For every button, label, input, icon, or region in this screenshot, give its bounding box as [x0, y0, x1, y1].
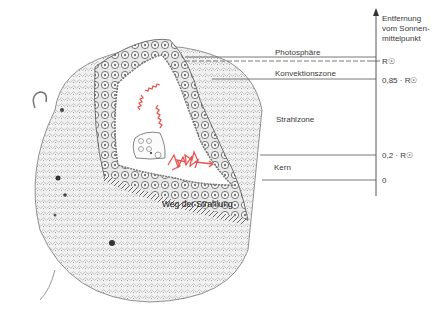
tick-label-0: 0 [382, 176, 386, 185]
distance-axis [373, 8, 379, 196]
axis-title-line-1: Entfernung [382, 14, 446, 24]
zone-label-convection: Konvektionszone [275, 69, 336, 78]
zone-label-radiative: Strahlzone [276, 115, 314, 124]
radiation-path-label: Weg der Strahlung [162, 200, 233, 209]
zone-label-photosphere: Photosphäre [275, 48, 320, 57]
axis-title-line-2: vom Sonnen- [382, 24, 446, 34]
axis-title-line-3: mittelpunkt [382, 34, 446, 44]
axis-title: Entfernung vom Sonnen- mittelpunkt [382, 14, 446, 44]
zone-label-core: Kern [274, 163, 291, 172]
tick-label-02: 0,2 · R☉ [382, 151, 413, 160]
tick-label-r-sun: R☉ [382, 57, 395, 66]
tick-label-085: 0,85 · R☉ [382, 76, 417, 85]
sun-illustration [0, 0, 446, 316]
